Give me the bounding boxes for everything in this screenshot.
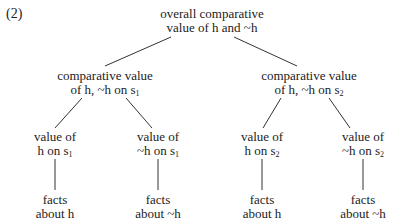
leaf-node-1: value of h on s1 (25, 130, 85, 162)
root-node: overall comparative value of h and ~h (142, 7, 282, 35)
mid-right-node: comparative value of h, ~h on s2 (248, 69, 370, 101)
fact-node-2: facts about ~h (127, 193, 189, 221)
fact-node-4: facts about ~h (332, 193, 394, 221)
leaf-node-4: value of ~h on s2 (332, 130, 394, 162)
fact-node-3: facts about h (232, 193, 292, 221)
fact-node-1: facts about h (25, 193, 85, 221)
leaf-node-2: value of ~h on s1 (127, 130, 189, 162)
mid-left-node: comparative value of h, ~h on s1 (44, 69, 166, 101)
leaf-node-3: value of h on s2 (232, 130, 292, 162)
